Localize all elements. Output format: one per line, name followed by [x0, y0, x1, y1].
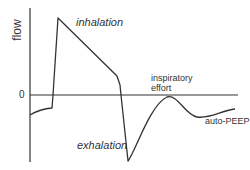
y-axis-label: flow [11, 17, 23, 43]
inhalation-annotation: inhalation [76, 17, 123, 28]
flow-waveform [30, 18, 235, 161]
exhalation-annotation: exhalation [77, 140, 127, 151]
inspiratory-effort-annotation: inspiratory effort [151, 73, 193, 93]
zero-tick-label: 0 [19, 90, 25, 100]
inspiratory-label-line1: inspiratory [151, 73, 193, 83]
inspiratory-label-line2: effort [151, 83, 193, 93]
auto-peep-annotation: auto-PEEP [205, 117, 250, 126]
